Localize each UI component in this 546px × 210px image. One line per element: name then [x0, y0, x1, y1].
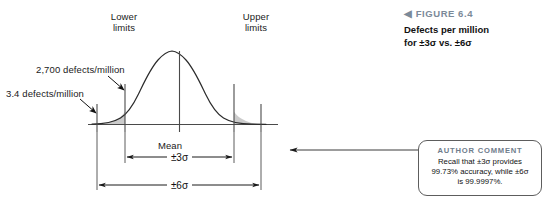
lower-limits-label: Lower limits	[96, 11, 152, 33]
annotation-34-defects: 3.4 defects/million	[6, 88, 84, 99]
figure-number-label: ◀ FIGURE 6.4	[404, 8, 542, 20]
annotation-2700-defects: 2,700 defects/million	[36, 64, 125, 75]
mean-label: Mean	[143, 140, 197, 151]
author-comment-callout: AUTHOR COMMENT Recall that ±3σ provides …	[418, 140, 542, 196]
span-6sigma-label: ±6σ	[171, 180, 189, 191]
figure-caption-text: Defects per million for ±3σ vs. ±6σ	[404, 24, 542, 49]
author-comment-body: Recall that ±3σ provides 99.73% accuracy…	[419, 157, 541, 188]
figure-caption-block: ◀ FIGURE 6.4 Defects per million for ±3σ…	[404, 8, 542, 49]
upper-limits-label: Upper limits	[228, 11, 284, 33]
span-3sigma-label: ±3σ	[171, 152, 189, 163]
author-comment-title: AUTHOR COMMENT	[419, 146, 541, 155]
leader-line-2700	[108, 76, 124, 90]
leader-line-34	[80, 99, 96, 113]
figure-page: ±3σ ±6σ Lower limits Upper limits 2,700 …	[0, 0, 546, 210]
